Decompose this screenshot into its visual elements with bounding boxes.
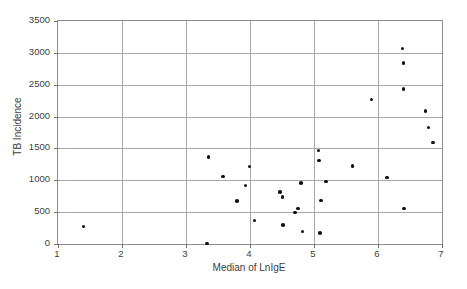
data-point: [370, 98, 374, 102]
y-axis-tick-label: 3500: [4, 15, 50, 25]
x-axis-tick-label: 6: [367, 249, 387, 259]
y-axis-tick: [54, 53, 58, 54]
data-point: [317, 159, 321, 163]
data-point: [205, 242, 209, 246]
gridline-vertical: [250, 21, 251, 244]
y-axis-tick: [54, 117, 58, 118]
data-point: [301, 230, 305, 234]
data-point: [402, 61, 406, 65]
gridline-vertical: [186, 21, 187, 244]
x-axis-tick-label: 7: [431, 249, 451, 259]
data-point: [324, 180, 328, 184]
data-point: [402, 87, 406, 91]
data-point: [281, 195, 285, 199]
y-axis-tick-label: 2500: [4, 79, 50, 89]
y-axis-tick: [54, 212, 58, 213]
y-axis-tick: [54, 21, 58, 22]
data-point: [244, 184, 248, 188]
data-point: [235, 199, 239, 203]
y-axis-tick: [54, 180, 58, 181]
data-point: [318, 231, 322, 235]
x-axis-title: Median of LnIgE: [57, 262, 441, 273]
gridline-vertical: [378, 21, 379, 244]
x-axis-tick-label: 5: [303, 249, 323, 259]
scatter-chart: Median of LnIgE TB Incidence 05001000150…: [0, 0, 467, 289]
y-axis-tick-label: 1500: [4, 142, 50, 152]
data-point: [401, 47, 405, 51]
y-axis-tick-label: 500: [4, 206, 50, 216]
y-axis-tick-label: 1000: [4, 174, 50, 184]
data-point: [299, 181, 303, 185]
data-point: [207, 155, 211, 159]
gridline-vertical: [122, 21, 123, 244]
data-point: [221, 175, 225, 179]
data-point: [319, 199, 323, 203]
data-point: [253, 219, 257, 223]
data-point: [293, 211, 297, 215]
data-point: [317, 149, 321, 153]
data-point: [351, 164, 355, 168]
x-axis-tick-label: 2: [111, 249, 131, 259]
data-point: [427, 126, 431, 130]
x-axis-tick-label: 3: [175, 249, 195, 259]
plot-area: [57, 20, 443, 245]
data-point: [424, 109, 428, 113]
x-axis-tick-label: 4: [239, 249, 259, 259]
y-axis-tick-label: 3000: [4, 47, 50, 57]
data-point: [385, 176, 389, 180]
data-point: [82, 225, 86, 229]
data-point: [402, 207, 406, 211]
gridline-vertical: [314, 21, 315, 244]
data-point: [281, 223, 285, 227]
data-point: [296, 207, 300, 211]
data-point: [431, 141, 435, 145]
data-point: [278, 190, 282, 194]
x-axis-tick-label: 1: [47, 249, 67, 259]
y-axis-tick: [54, 148, 58, 149]
y-axis-tick-label: 2000: [4, 111, 50, 121]
y-axis-tick: [54, 85, 58, 86]
y-axis-tick-label: 0: [4, 238, 50, 248]
